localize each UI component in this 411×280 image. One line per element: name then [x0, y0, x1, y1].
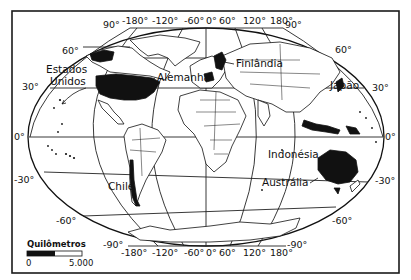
svg-text:-90°: -90°: [287, 239, 307, 250]
svg-text:-120°: -120°: [152, 15, 178, 26]
svg-text:120°: 120°: [243, 247, 266, 258]
svg-text:60°: 60°: [335, 44, 352, 55]
svg-text:-30°: -30°: [14, 174, 34, 185]
scale-bar: Quilômetros 0 5.000: [26, 239, 93, 268]
svg-text:-180°: -180°: [121, 247, 147, 258]
label-australia: Austrália: [262, 176, 308, 188]
svg-text:-180°: -180°: [122, 15, 148, 26]
svg-text:0°: 0°: [206, 247, 217, 258]
label-alemanha: Alemanha: [157, 71, 210, 83]
label-estados-unidos-1: Estados: [46, 63, 87, 75]
scale-max: 5.000: [69, 258, 93, 268]
svg-text:60°: 60°: [219, 15, 236, 26]
svg-text:0°: 0°: [14, 131, 25, 142]
svg-text:-120°: -120°: [152, 247, 178, 258]
scale-min: 0: [26, 258, 31, 268]
svg-text:30°: 30°: [372, 82, 389, 93]
label-estados-unidos-2: Unidos: [50, 75, 86, 87]
svg-text:60°: 60°: [219, 247, 236, 258]
country-estados-unidos: [96, 74, 160, 100]
label-indonesia: Indonésia: [268, 148, 319, 160]
svg-text:-60°: -60°: [184, 15, 204, 26]
world-map: Estados Unidos Alemanha Finlândia Japão …: [0, 0, 411, 280]
svg-text:120°: 120°: [243, 15, 266, 26]
svg-text:60°: 60°: [62, 45, 79, 56]
svg-text:-60°: -60°: [184, 247, 204, 258]
svg-text:-60°: -60°: [332, 215, 352, 226]
svg-text:-30°: -30°: [375, 175, 395, 186]
svg-text:0°: 0°: [206, 15, 217, 26]
svg-text:90°: 90°: [285, 19, 302, 30]
svg-text:-60°: -60°: [56, 215, 76, 226]
scale-title: Quilômetros: [27, 239, 86, 249]
svg-text:30°: 30°: [22, 81, 39, 92]
label-japao: Japão: [329, 79, 359, 91]
label-chile: Chile: [108, 180, 134, 192]
label-finlandia: Finlândia: [236, 57, 283, 69]
svg-text:90°: 90°: [103, 19, 120, 30]
svg-text:0°: 0°: [385, 131, 396, 142]
country-australia: [318, 150, 358, 184]
